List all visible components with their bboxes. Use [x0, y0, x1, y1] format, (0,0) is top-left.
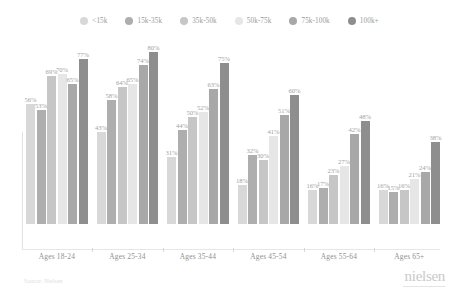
bar-value-label: 51% [278, 107, 290, 114]
bar-item[interactable]: 23% [329, 10, 338, 250]
bar-value-label: 16% [398, 182, 410, 189]
bar[interactable] [58, 74, 67, 224]
source-note: Source: Nielsen [24, 278, 63, 284]
bar[interactable] [400, 190, 409, 224]
bar-value-label: 48% [359, 113, 371, 120]
bar-item[interactable]: 31% [167, 10, 176, 250]
bar-item[interactable]: 43% [97, 10, 106, 250]
plot-area: 56%53%69%70%65%77%43%58%64%65%74%80%31%4… [22, 36, 440, 250]
bar-item[interactable]: 15% [389, 10, 398, 250]
bar-groups: 56%53%69%70%65%77%43%58%64%65%74%80%31%4… [26, 36, 440, 250]
bar[interactable] [79, 59, 88, 224]
bar-item[interactable]: 60% [290, 10, 299, 250]
bar-value-label: 18% [236, 177, 248, 184]
bar[interactable] [248, 155, 257, 224]
bar[interactable] [188, 117, 197, 224]
bar-item[interactable]: 48% [361, 10, 370, 250]
bar[interactable] [259, 160, 268, 224]
bar-item[interactable]: 21% [410, 10, 419, 250]
bar-item[interactable]: 30% [259, 10, 268, 250]
y-axis-line [22, 132, 23, 250]
bar[interactable] [47, 76, 56, 224]
bar-group: 43%58%64%65%74%80% [97, 36, 159, 250]
bar[interactable] [220, 63, 229, 224]
bar-value-label: 27% [338, 158, 350, 165]
bar-group: 16%17%23%27%42%48% [308, 36, 370, 250]
bar-item[interactable]: 70% [58, 10, 67, 250]
bar-value-label: 23% [327, 167, 339, 174]
bar-item[interactable]: 24% [421, 10, 430, 250]
bar[interactable] [319, 188, 328, 224]
bar-item[interactable]: 65% [128, 10, 137, 250]
axis-tick [304, 248, 305, 252]
bar-item[interactable]: 16% [379, 10, 388, 250]
bar-value-label: 58% [105, 92, 117, 99]
bar[interactable] [280, 115, 289, 224]
bar-item[interactable]: 56% [26, 10, 35, 250]
bar-item[interactable]: 53% [37, 10, 46, 250]
bar-item[interactable]: 77% [79, 10, 88, 250]
bar-item[interactable]: 17% [319, 10, 328, 250]
bar-item[interactable]: 64% [118, 10, 127, 250]
bar-value-label: 30% [257, 152, 269, 159]
bar-value-label: 77% [77, 51, 89, 58]
bar[interactable] [26, 104, 35, 224]
bar-item[interactable]: 27% [340, 10, 349, 250]
bar-value-label: 38% [429, 134, 441, 141]
bar-item[interactable]: 16% [308, 10, 317, 250]
bar[interactable] [97, 132, 106, 224]
bar[interactable] [107, 100, 116, 224]
bar[interactable] [410, 179, 419, 224]
bar[interactable] [308, 190, 317, 224]
category-label: Ages 55-64 [321, 252, 357, 261]
bar[interactable] [199, 112, 208, 224]
nielsen-logo: nielsen [405, 269, 445, 284]
bar-item[interactable]: 38% [431, 10, 440, 250]
bar[interactable] [269, 136, 278, 224]
bar[interactable] [350, 134, 359, 224]
bar[interactable] [139, 65, 148, 224]
bar[interactable] [329, 175, 338, 224]
bar-item[interactable]: 44% [178, 10, 187, 250]
bar[interactable] [68, 84, 77, 224]
bar-value-label: 74% [137, 57, 149, 64]
bar-group: 18%32%30%41%51%60% [238, 36, 300, 250]
bar-value-label: 60% [288, 87, 300, 94]
bar[interactable] [167, 157, 176, 224]
bar-item[interactable]: 69% [47, 10, 56, 250]
bar[interactable] [431, 142, 440, 224]
bar-item[interactable]: 74% [139, 10, 148, 250]
category-label: Ages 45-54 [250, 252, 286, 261]
bar-item[interactable]: 18% [238, 10, 247, 250]
bar-item[interactable]: 41% [269, 10, 278, 250]
category-label: Ages 18-24 [39, 252, 75, 261]
bar-item[interactable]: 32% [248, 10, 257, 250]
bar[interactable] [389, 192, 398, 224]
bar-item[interactable]: 63% [209, 10, 218, 250]
bar-item[interactable]: 51% [280, 10, 289, 250]
bar[interactable] [209, 89, 218, 224]
bar-item[interactable]: 52% [199, 10, 208, 250]
category-label: Ages 35-44 [180, 252, 216, 261]
bar[interactable] [128, 84, 137, 224]
bar[interactable] [379, 190, 388, 224]
bar-value-label: 17% [317, 180, 329, 187]
bar-item[interactable]: 65% [68, 10, 77, 250]
bar-value-label: 42% [348, 126, 360, 133]
bar[interactable] [37, 110, 46, 224]
bar[interactable] [238, 185, 247, 224]
bar[interactable] [149, 52, 158, 224]
bar[interactable] [361, 121, 370, 224]
bar-item[interactable]: 58% [107, 10, 116, 250]
bar[interactable] [421, 172, 430, 224]
bar-item[interactable]: 42% [350, 10, 359, 250]
bar[interactable] [290, 95, 299, 224]
bar-item[interactable]: 80% [149, 10, 158, 250]
bar-item[interactable]: 16% [400, 10, 409, 250]
bar[interactable] [340, 166, 349, 224]
bar[interactable] [118, 87, 127, 224]
bar[interactable] [178, 130, 187, 224]
bar-value-label: 53% [35, 102, 47, 109]
bar-item[interactable]: 50% [188, 10, 197, 250]
bar-item[interactable]: 75% [220, 10, 229, 250]
